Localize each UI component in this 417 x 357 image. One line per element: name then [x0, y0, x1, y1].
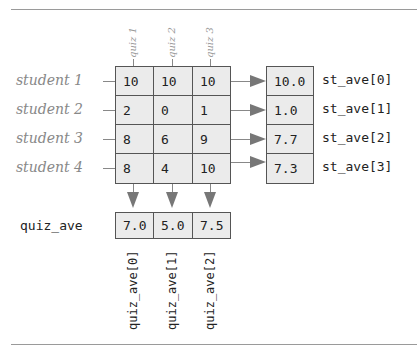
score-cell: 0 [153, 95, 193, 125]
arrow-head-right-icon [250, 133, 266, 145]
quiz-ave-index-label: quiz_ave[0] [126, 251, 140, 330]
st-ave-cell: 10.0 [266, 66, 314, 96]
arrow-head-down-icon [204, 192, 216, 208]
st-ave-label: st_ave[2] [322, 130, 392, 145]
arrow-head-right-icon [250, 75, 266, 87]
quiz-ave-cell: 7.0 [115, 212, 154, 239]
score-cell: 10 [115, 66, 154, 96]
arrow-row-3 [231, 139, 251, 140]
student-tick-3 [103, 139, 115, 140]
quiz-tick-2 [172, 59, 173, 66]
bottom-rule [11, 344, 417, 345]
student-label-3: student 3 [3, 130, 83, 146]
student-tick-2 [103, 110, 115, 111]
student-label-4: student 4 [3, 159, 83, 175]
student-label-1: student 1 [3, 72, 83, 88]
score-cell: 6 [153, 124, 193, 154]
st-ave-cell: 7.7 [266, 124, 314, 154]
arrow-row-4 [231, 162, 251, 163]
score-cell: 8 [115, 153, 154, 184]
arrow-row-2 [231, 110, 251, 111]
quiz-tick-1 [133, 59, 134, 66]
score-cell: 10 [192, 66, 231, 96]
quiz-ave-cell: 7.5 [192, 212, 231, 239]
quiz-header-3: quiz 3 [204, 27, 215, 58]
quiz-header-2: quiz 2 [166, 27, 177, 58]
arrow-head-down-icon [166, 192, 178, 208]
student-tick-4 [103, 168, 115, 169]
quiz-tick-3 [210, 59, 211, 66]
quiz-ave-index-label: quiz_ave[1] [165, 251, 179, 330]
score-cell: 9 [192, 124, 231, 154]
quiz-ave-label: quiz_ave [20, 218, 83, 233]
score-cell: 1 [192, 95, 231, 125]
score-cell: 10 [153, 66, 193, 96]
arrow-head-right-icon [250, 156, 266, 168]
st-ave-cell: 7.3 [266, 153, 314, 184]
score-cell: 10 [192, 153, 231, 184]
student-tick-1 [103, 81, 115, 82]
st-ave-label: st_ave[1] [322, 101, 392, 116]
student-label-2: student 2 [3, 101, 83, 117]
st-ave-label: st_ave[0] [322, 72, 392, 87]
st-ave-label: st_ave[3] [322, 159, 392, 174]
quiz-header-1: quiz 1 [127, 27, 138, 58]
quiz-ave-cell: 5.0 [153, 212, 193, 239]
arrow-row-1 [231, 81, 251, 82]
st-ave-cell: 1.0 [266, 95, 314, 125]
score-cell: 2 [115, 95, 154, 125]
score-cell: 4 [153, 153, 193, 184]
arrow-head-right-icon [250, 104, 266, 116]
top-rule [11, 9, 417, 10]
quiz-ave-index-label: quiz_ave[2] [203, 251, 217, 330]
score-cell: 8 [115, 124, 154, 154]
arrow-head-down-icon [127, 192, 139, 208]
